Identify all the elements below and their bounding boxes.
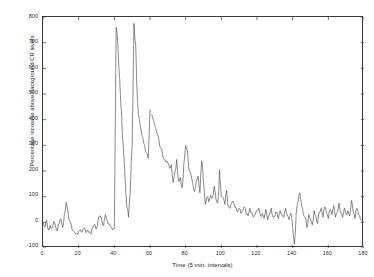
x-tick-60: 60 — [137, 250, 161, 256]
x-axis-title: Time (5 min. intervals) — [42, 262, 363, 268]
y-tick-neg100: -100 — [16, 242, 38, 248]
x-tick-40: 40 — [101, 250, 125, 256]
x-tick-100: 100 — [208, 250, 232, 256]
plot-area — [42, 16, 363, 247]
x-tick-140: 140 — [280, 250, 304, 256]
x-tick-0: 0 — [30, 250, 54, 256]
y-tick-0: 0 — [16, 217, 38, 223]
data-line-decay-and-tail — [152, 115, 361, 245]
y-axis-title: Percentage increase above background CR … — [29, 6, 35, 196]
data-line-group — [43, 23, 360, 244]
data-line-baseline-and-spikes — [43, 23, 150, 234]
chart-line-svg — [43, 17, 364, 248]
x-tick-80: 80 — [173, 250, 197, 256]
tick-marks — [43, 17, 364, 248]
x-tick-160: 160 — [315, 250, 339, 256]
x-tick-180: 180 — [351, 250, 374, 256]
x-tick-120: 120 — [244, 250, 268, 256]
x-tick-20: 20 — [66, 250, 90, 256]
figure-container: 800 700 600 500 400 300 200 100 0 -100 0… — [0, 0, 374, 277]
